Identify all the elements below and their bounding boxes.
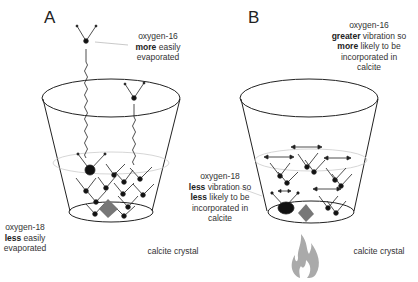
label-bold: greater <box>332 31 361 41</box>
label-bold: more <box>136 42 157 52</box>
label-a-oxygen16: oxygen-16 more easily evaporated <box>128 31 188 63</box>
label-bold: more <box>337 41 358 51</box>
label-line: evaporated <box>0 243 50 254</box>
water-molecules-b <box>270 153 352 215</box>
label-b-oxygen16: oxygen-16 greater vibration so more like… <box>326 20 412 73</box>
label-line: oxygen-18 <box>0 222 50 233</box>
label-bold: less <box>190 192 207 202</box>
label-b-oxygen18: oxygen-18 less vibration so less likely … <box>180 171 260 224</box>
label-line: calcite <box>180 213 260 224</box>
label-line: vibration so <box>205 182 251 192</box>
label-line: calcite <box>326 62 412 73</box>
label-line: vibration so <box>360 31 406 41</box>
label-line: oxygen-16 <box>128 31 188 42</box>
calcite-crystal-b <box>298 204 314 222</box>
bucket-a <box>42 79 180 222</box>
flame-icon <box>292 234 319 278</box>
label-line: likely to be <box>358 41 401 51</box>
label-line: incorporated in <box>326 52 412 63</box>
label-line: easily <box>156 42 180 52</box>
label-a-oxygen18: oxygen-18 less easily evaporated <box>0 222 50 254</box>
panel-label-b: B <box>248 8 259 28</box>
label-line: oxygen-16 <box>326 20 412 31</box>
label-b-calcite-crystal: calcite crystal <box>346 246 412 257</box>
label-bold: less <box>189 182 206 192</box>
label-line: evaporated <box>128 52 188 63</box>
bucket-b <box>240 79 378 223</box>
label-line: likely to be <box>207 192 250 202</box>
label-bold: less <box>5 233 22 243</box>
label-line: easily <box>21 233 45 243</box>
label-line: incorporated in <box>180 203 260 214</box>
evaporating-molecule-a1 <box>76 25 128 158</box>
panel-label-a: A <box>44 8 55 28</box>
label-line: oxygen-18 <box>180 171 260 182</box>
label-a-calcite-crystal: calcite crystal <box>140 246 206 257</box>
